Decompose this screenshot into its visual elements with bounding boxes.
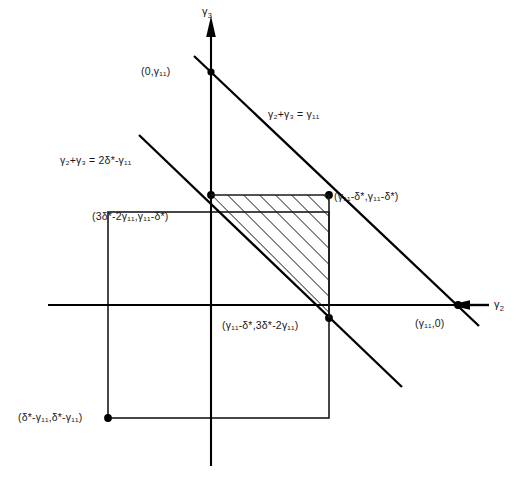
point-square-bottom-left-corner bbox=[104, 414, 112, 422]
geometric-diagram-figure: γ3 γ2 (0,γ₁₁) γ₂+γ₃ = γ₁₁ γ₂+γ₃ = 2δ*-γ₁… bbox=[0, 0, 526, 495]
label-lower-right-vertex: (γ₁₁-δ*,3δ*-2γ₁₁) bbox=[222, 320, 299, 331]
x-axis-label: γ2 bbox=[494, 299, 504, 310]
label-lower-constraint-equation: γ₂+γ₃ = 2δ*-γ₁₁ bbox=[60, 155, 132, 166]
y-axis-label: γ3 bbox=[202, 6, 212, 17]
label-x-axis-intercept: (γ₁₁,0) bbox=[415, 318, 445, 329]
label-upper-left-vertex: (3δ*-2γ₁₁,γ₁₁-δ*) bbox=[92, 211, 169, 222]
label-square-bottom-left-corner: (δ*-γ₁₁,δ*-γ₁₁) bbox=[18, 412, 82, 423]
lower-constraint-line bbox=[139, 135, 402, 387]
label-y-axis-intercept: (0,γ₁₁) bbox=[141, 66, 171, 77]
point-y-axis-intercept bbox=[207, 68, 214, 75]
label-upper-right-vertex: (γ₁₁-δ*,γ₁₁-δ*) bbox=[334, 191, 398, 202]
point-x-axis-intercept bbox=[454, 301, 462, 309]
label-upper-constraint-equation: γ₂+γ₃ = γ₁₁ bbox=[268, 109, 320, 120]
